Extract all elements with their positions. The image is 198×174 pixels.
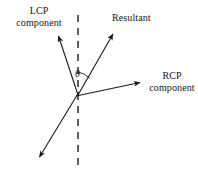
lcp-label-line-2: component [11,17,67,29]
rcp-component-label: RCP component [146,70,198,93]
lcp-component-label: LCP component [11,5,67,28]
lower-left-vector [40,92,80,157]
lcp-component-vector [59,36,79,95]
vector-diagram-figure: LCP component Resultant RCP component θ [0,0,198,174]
angle-theta-label: θ [75,68,80,80]
resultant-label: Resultant [112,12,151,24]
resultant-vector [78,34,113,95]
rcp-label-line-1: RCP [146,70,198,82]
rcp-label-line-2: component [146,82,198,94]
lcp-label-line-1: LCP [11,5,67,17]
rcp-component-vector [76,83,140,97]
